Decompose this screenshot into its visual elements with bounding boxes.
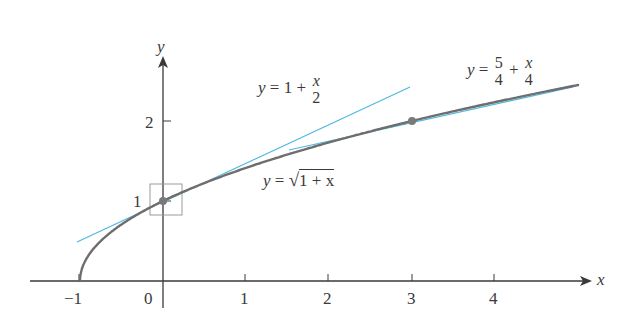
y-tick-label: 1 [133, 193, 142, 210]
x-tick-label: −1 [64, 290, 82, 307]
denominator: 4 [495, 71, 503, 88]
radicand: 1 + x [299, 169, 334, 190]
eq-plus: + [505, 60, 523, 79]
eq-rhs: = 1 + [266, 78, 311, 97]
denominator: 4 [525, 71, 533, 88]
x-tick-label: 2 [323, 290, 332, 307]
radical-icon: √ [289, 169, 299, 190]
numerator: 5 [495, 55, 503, 71]
chart-canvas [0, 0, 631, 331]
y-tick-label: 2 [145, 114, 154, 131]
tangent-point-0 [159, 197, 167, 205]
eq-lhs: y [263, 171, 271, 190]
tangent-line-1 [77, 87, 410, 242]
fraction: x2 [312, 73, 320, 106]
x-tick-label: 4 [489, 290, 498, 307]
x-tick-label: 0 [144, 290, 153, 307]
eq-equals: = [271, 171, 289, 190]
tangent-point-3 [408, 117, 416, 125]
x-ticks [79, 274, 494, 281]
tangent-2-equation: y = 54 + x4 [467, 55, 535, 88]
tangent-1-equation: y = 1 + x2 [258, 73, 322, 106]
x-tick-label: 1 [240, 290, 249, 307]
numerator: x [312, 73, 320, 89]
numerator: x [525, 55, 533, 71]
y-axis-label: y [157, 38, 165, 55]
denominator: 2 [312, 89, 320, 106]
y-ticks [163, 121, 171, 201]
eq-equals: = [475, 60, 493, 79]
x-tick-label: 3 [407, 290, 416, 307]
eq-lhs: y [258, 78, 266, 97]
x-axis-label: x [597, 271, 605, 288]
fraction-2: x4 [525, 55, 533, 88]
curve-equation: y = √1 + x [263, 170, 334, 189]
fraction-1: 54 [495, 55, 503, 88]
eq-lhs: y [467, 60, 475, 79]
